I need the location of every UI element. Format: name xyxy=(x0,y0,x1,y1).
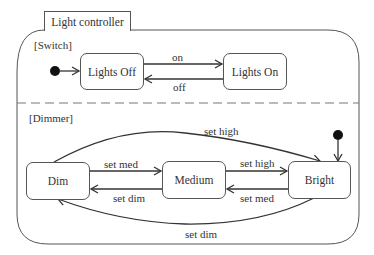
diagram-title-tab: Light controller xyxy=(44,11,131,31)
state-lights-off: Lights Off xyxy=(80,53,144,90)
light-controller-container xyxy=(17,30,359,244)
state-bright: Bright xyxy=(288,161,351,199)
state-dim: Dim xyxy=(26,162,90,200)
transition-label-on: on xyxy=(172,51,183,63)
state-lights-on: Lights On xyxy=(223,53,287,90)
transition-label-off: off xyxy=(173,81,186,93)
transition-label-medium-to-dim: set dim xyxy=(113,192,145,204)
transition-label-dim-to-medium: set med xyxy=(104,158,138,170)
dimmer-initial-dot xyxy=(333,130,343,140)
transition-label-bright-to-dim: set dim xyxy=(185,228,217,240)
dimmer-region-label: [Dimmer] xyxy=(29,112,73,124)
transition-bright-to-dim xyxy=(58,198,314,224)
state-medium: Medium xyxy=(162,161,226,199)
transition-label-medium-to-bright: set high xyxy=(240,157,275,169)
transition-label-dim-to-bright: set high xyxy=(204,125,239,137)
switch-region-label: [Switch] xyxy=(34,39,72,51)
transition-dim-to-bright xyxy=(54,132,320,162)
switch-initial-dot xyxy=(50,66,60,76)
transition-label-bright-to-medium: set med xyxy=(240,192,274,204)
